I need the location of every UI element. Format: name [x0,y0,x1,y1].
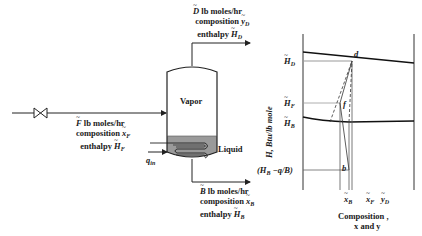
bottoms-label: B lb moles/hr composition xB enthalpy HB [200,186,254,222]
liquid-label: Liquid [218,144,243,154]
chart-y-axis-label: H, Btu/lb mole [264,106,274,158]
x-tick-xb: xB [344,194,352,207]
flash-vessel [167,67,217,157]
y-tick-hd: HD [284,56,295,69]
valve-icon [34,108,47,118]
x-tick-yd: yD [381,194,389,207]
point-b-label: b [342,163,346,173]
y-tick-hb-minus-q: (HB −q/B) [257,165,293,178]
bottoms-line [192,159,250,182]
vapor-label: Vapor [180,96,202,106]
distillate-label: D lb moles/hr composition yD enthalpy HD [193,6,249,42]
distillate-line [192,43,250,66]
feed-label: F lb moles/hr composition xF enthalpy HF [76,118,130,154]
point-f-label: f [343,99,346,109]
liquid-region [167,136,217,157]
heat-input-label: qin [146,155,155,168]
point-d-label: d [354,49,358,59]
y-tick-hb: HB [284,118,295,131]
enthalpy-composition-chart [303,34,414,190]
chart-x-axis-label: Composition , x and y [338,211,389,231]
x-tick-xf: xF [366,194,374,207]
y-tick-hf: HF [284,98,295,111]
saturated-liquid-curve [303,117,414,122]
